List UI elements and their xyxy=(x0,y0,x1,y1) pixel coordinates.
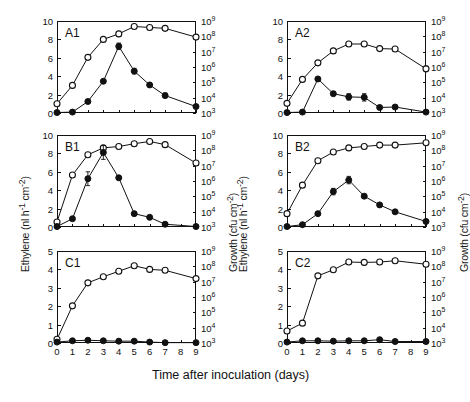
data-point-filled-circle xyxy=(377,337,383,343)
data-point-open-circle xyxy=(423,261,429,267)
data-point-open-circle xyxy=(284,328,290,334)
data-point-open-circle xyxy=(299,320,305,326)
data-point-filled-circle xyxy=(315,338,321,344)
data-point-filled-circle xyxy=(346,338,352,344)
data-point-open-circle xyxy=(361,259,367,265)
series-line xyxy=(287,261,426,331)
data-point-filled-circle xyxy=(392,339,398,345)
data-point-open-circle xyxy=(392,258,398,264)
data-point-open-circle xyxy=(346,259,352,265)
data-point-open-circle xyxy=(377,259,383,265)
series-line xyxy=(287,340,426,342)
data-point-filled-circle xyxy=(284,339,290,345)
data-point-filled-circle xyxy=(361,338,367,344)
data-point-filled-circle xyxy=(299,338,305,344)
data-point-open-circle xyxy=(315,273,321,279)
data-point-filled-circle xyxy=(423,339,429,345)
data-point-filled-circle xyxy=(330,338,336,344)
data-point-open-circle xyxy=(330,267,336,273)
